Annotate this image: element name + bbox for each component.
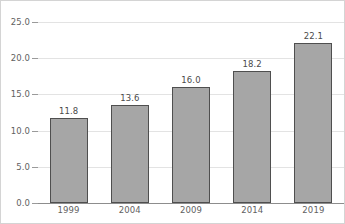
xtick-label-2009: 2009	[169, 205, 213, 215]
xtick-label-1999: 1999	[47, 205, 91, 215]
ytick-label-15: 15.0	[11, 89, 30, 99]
bar-1999[interactable]	[50, 118, 88, 203]
ytick-mark-25	[32, 22, 38, 23]
ytick-label-0: 0.0	[16, 198, 30, 208]
plot-area: 25.0 20.0 15.0 10.0 5.0 0.0 11.8 13.6 16…	[1, 1, 345, 224]
axis-baseline	[38, 203, 344, 204]
ytick-label-10: 10.0	[11, 126, 30, 136]
ytick-mark-15	[32, 94, 38, 95]
gridline-25	[38, 22, 344, 23]
ytick-mark-20	[32, 58, 38, 59]
xtick-label-2014: 2014	[230, 205, 274, 215]
bar-chart: 25.0 20.0 15.0 10.0 5.0 0.0 11.8 13.6 16…	[0, 0, 345, 224]
bar-value-label-1999: 11.8	[49, 106, 89, 116]
ytick-mark-10	[32, 131, 38, 132]
ytick-label-25: 25.0	[11, 17, 30, 27]
xtick-label-2004: 2004	[108, 205, 152, 215]
bar-value-label-2014: 18.2	[232, 59, 272, 69]
xtick-label-2019: 2019	[291, 205, 335, 215]
bar-2009[interactable]	[172, 87, 210, 203]
ytick-mark-5	[32, 167, 38, 168]
bar-2004[interactable]	[111, 105, 149, 203]
bar-2019[interactable]	[294, 43, 332, 203]
bar-value-label-2004: 13.6	[110, 93, 150, 103]
ytick-label-5: 5.0	[16, 162, 30, 172]
bar-value-label-2009: 16.0	[171, 75, 211, 85]
bar-value-label-2019: 22.1	[293, 31, 333, 41]
ytick-label-20: 20.0	[11, 53, 30, 63]
ytick-mark-0	[32, 203, 38, 204]
bar-2014[interactable]	[233, 71, 271, 203]
